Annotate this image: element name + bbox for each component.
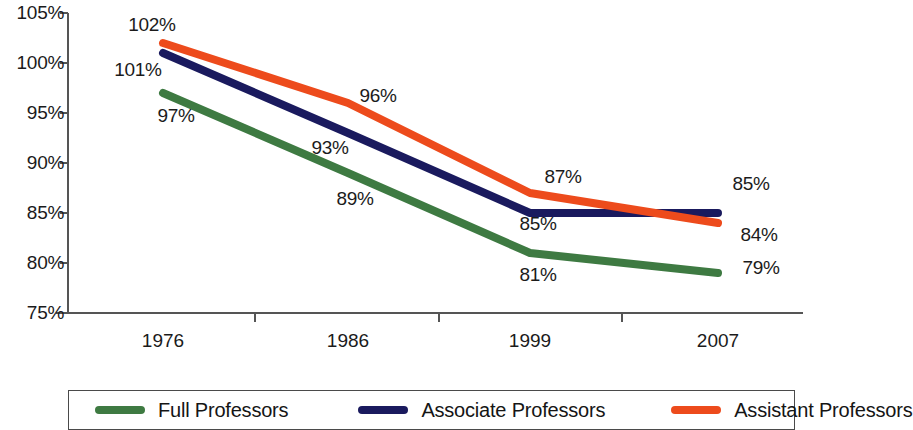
data-label: 81% [519, 264, 556, 286]
legend-item-assistant-professors[interactable]: Assistant Professors [671, 399, 912, 422]
data-label: 87% [544, 166, 581, 188]
y-tick-label: 100% [2, 53, 64, 72]
data-label: 96% [359, 85, 396, 107]
legend-item-associate-professors[interactable]: Associate Professors [358, 399, 605, 422]
y-tick-label: 75% [2, 303, 64, 322]
data-label: 84% [740, 224, 777, 246]
line-marker-orange-icon [671, 406, 721, 414]
y-tick-label: 80% [2, 253, 64, 272]
data-label: 102% [128, 14, 175, 36]
y-tick-label: 85% [2, 203, 64, 222]
legend-item-label: Full Professors [158, 399, 288, 422]
chart-legend: Full Professors Associate Professors Ass… [68, 390, 795, 430]
x-tick-label: 1986 [327, 330, 369, 352]
series-lines [163, 43, 718, 273]
line-marker-navy-icon [358, 406, 408, 414]
x-tick-label: 1976 [142, 330, 184, 352]
legend-item-label: Assistant Professors [734, 399, 912, 422]
x-tick-label: 2007 [697, 330, 739, 352]
y-tick-label: 90% [2, 153, 64, 172]
data-label: 93% [311, 137, 348, 159]
data-label: 101% [114, 59, 161, 81]
series-line-full-professors [163, 93, 718, 273]
x-axis-ticks [255, 313, 622, 322]
legend-item-label: Associate Professors [421, 399, 605, 422]
data-label: 89% [336, 188, 373, 210]
line-marker-green-icon [95, 406, 145, 414]
y-axis-labels: 105% 100% 95% 90% 85% 80% 75% [0, 0, 64, 430]
legend-item-full-professors[interactable]: Full Professors [95, 399, 288, 422]
data-label: 79% [742, 257, 779, 279]
y-tick-label: 95% [2, 103, 64, 122]
data-label: 85% [519, 213, 556, 235]
data-label: 85% [732, 173, 769, 195]
y-tick-label: 105% [2, 3, 64, 22]
x-tick-label: 1999 [509, 330, 551, 352]
data-label: 97% [157, 105, 194, 127]
